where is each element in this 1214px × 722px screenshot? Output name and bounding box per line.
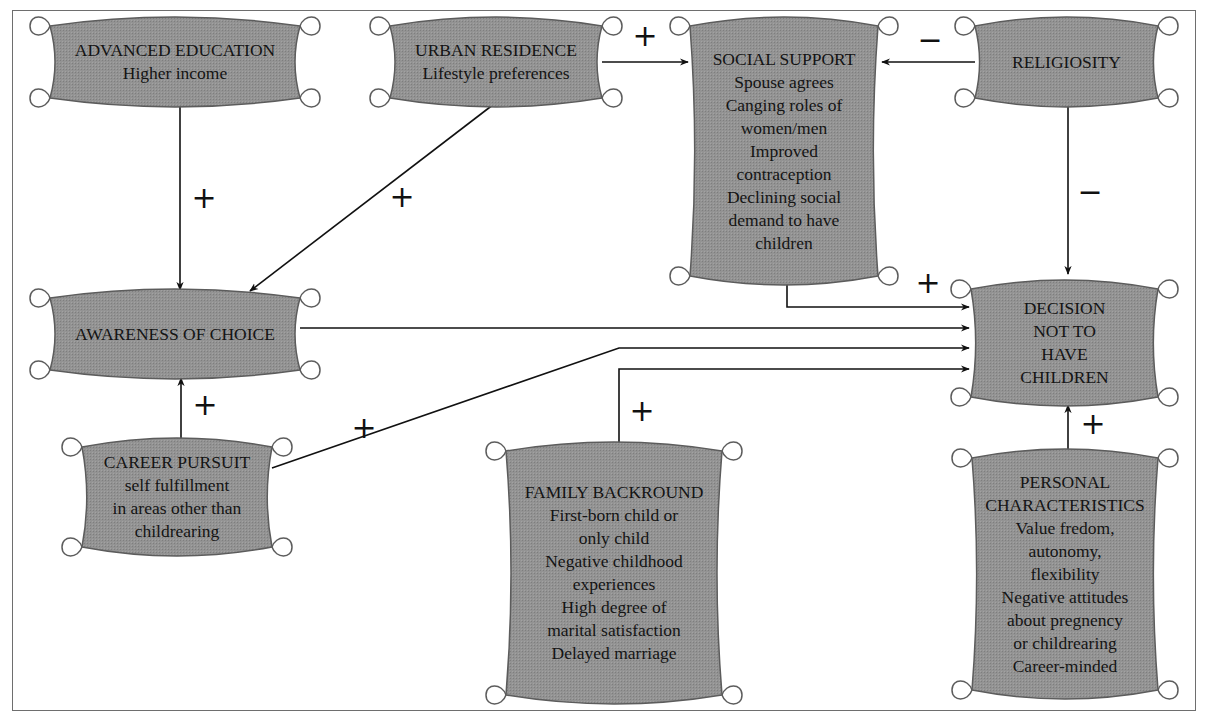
scroll-loop-icon [30, 289, 50, 307]
node-awareness-of-choice [30, 289, 320, 379]
plus-sign-icon: + [632, 21, 657, 51]
scroll-loop-icon [300, 289, 320, 307]
arrow-social-to-decision [787, 282, 969, 307]
plus-sign-icon: + [191, 183, 216, 213]
scroll-loop-icon [62, 538, 82, 556]
scroll-loop-icon [878, 267, 898, 285]
node-advanced-education [30, 17, 320, 107]
scroll-loop-icon [602, 89, 622, 107]
scroll-loop-icon [1158, 17, 1178, 35]
scroll-loop-icon [952, 449, 972, 467]
scroll-loop-icon [30, 89, 50, 107]
scroll-loop-icon [30, 17, 50, 35]
scroll-loop-icon [670, 17, 690, 35]
node-layer [30, 17, 1178, 704]
scroll-loop-icon [878, 17, 898, 35]
scroll-loop-icon [1158, 449, 1178, 467]
scroll-loop-icon [272, 438, 292, 456]
scroll-loop-icon [602, 17, 622, 35]
scroll-loop-icon [670, 267, 690, 285]
scroll-loop-icon [370, 89, 390, 107]
node-family-background [486, 442, 742, 704]
scroll-loop-icon [1158, 388, 1178, 406]
arrow-urban-to-awareness [250, 104, 494, 291]
scroll-loop-icon [722, 442, 742, 460]
minus-sign-icon: − [1077, 177, 1102, 207]
scroll-loop-icon [955, 89, 975, 107]
plus-sign-icon: + [915, 268, 940, 298]
node-social-support [670, 17, 898, 285]
scroll-loop-icon [1158, 89, 1178, 107]
scroll-loop-icon [370, 17, 390, 35]
plus-sign-icon: + [389, 182, 414, 212]
scroll-loop-icon [486, 686, 506, 704]
node-career-pursuit [62, 438, 292, 556]
scroll-loop-icon [955, 17, 975, 35]
plus-sign-icon: + [351, 413, 376, 443]
plus-sign-icon: + [629, 396, 654, 426]
minus-sign-icon: − [917, 25, 942, 55]
scroll-loop-icon [62, 438, 82, 456]
scroll-loop-icon [272, 538, 292, 556]
node-personal-characteristics [952, 449, 1178, 699]
scroll-loop-icon [1158, 280, 1178, 298]
plus-sign-icon: + [192, 390, 217, 420]
scroll-loop-icon [300, 89, 320, 107]
scroll-loop-icon [30, 361, 50, 379]
scroll-loop-icon [1158, 681, 1178, 699]
scroll-loop-icon [300, 17, 320, 35]
node-urban-residence [370, 17, 622, 107]
scroll-loop-icon [722, 686, 742, 704]
scroll-loop-icon [952, 681, 972, 699]
node-religiosity [955, 17, 1178, 107]
node-decision [951, 280, 1178, 406]
scroll-loop-icon [951, 388, 971, 406]
arrow-family-to-decision [619, 369, 969, 445]
plus-sign-icon: + [1080, 409, 1105, 439]
scroll-loop-icon [300, 361, 320, 379]
scroll-loop-icon [486, 442, 506, 460]
diagram-canvas [0, 0, 1214, 722]
scroll-loop-icon [951, 280, 971, 298]
